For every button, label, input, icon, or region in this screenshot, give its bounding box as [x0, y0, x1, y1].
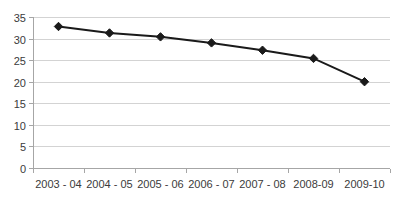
- x-axis-label-3: 2006 - 07: [188, 178, 234, 190]
- y-axis-label-10: 10: [14, 120, 26, 132]
- data-point-marker-4: [258, 46, 266, 54]
- y-axis-label-0: 0: [20, 163, 26, 175]
- series-line-path: [59, 26, 365, 81]
- y-axis-label-20: 20: [14, 77, 26, 89]
- y-axis-label-35: 35: [14, 12, 26, 24]
- data-point-marker-5: [309, 54, 317, 62]
- chart-canvas: 051015202530352003 - 042004 - 052005 - 0…: [0, 0, 402, 202]
- line-chart: 051015202530352003 - 042004 - 052005 - 0…: [0, 0, 402, 202]
- y-axis-label-30: 30: [14, 34, 26, 46]
- x-axis-label-0: 2003 - 04: [35, 178, 81, 190]
- x-axis-label-6: 2009-10: [344, 178, 384, 190]
- x-axis-label-2: 2005 - 06: [137, 178, 183, 190]
- y-axis-label-5: 5: [20, 141, 26, 153]
- x-axis-label-4: 2007 - 08: [239, 178, 285, 190]
- x-axis-label-5: 2008-09: [293, 178, 333, 190]
- x-axis-label-1: 2004 - 05: [86, 178, 132, 190]
- y-axis-label-25: 25: [14, 55, 26, 67]
- data-point-marker-6: [360, 78, 368, 86]
- data-point-marker-1: [105, 29, 113, 37]
- y-axis-label-15: 15: [14, 98, 26, 110]
- data-point-marker-0: [54, 22, 62, 30]
